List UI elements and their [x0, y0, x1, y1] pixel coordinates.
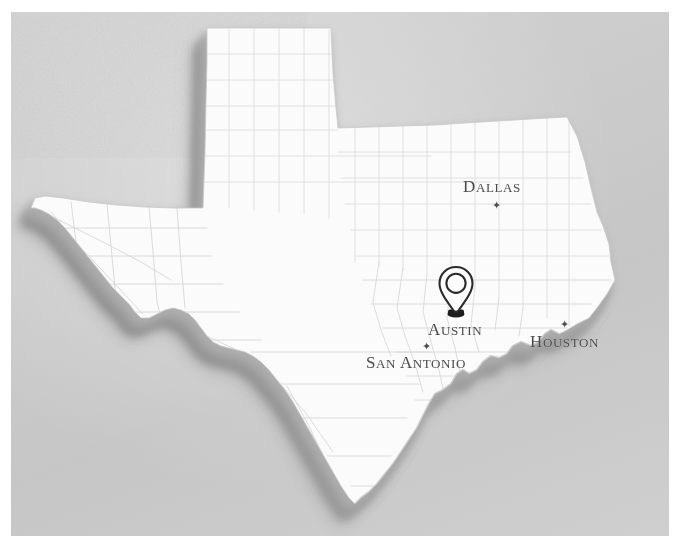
- map-screenshot: DALLAS ✦ AUSTIN SAN ANTONIO ✦ HOUSTON ✦: [0, 0, 680, 548]
- city-label-san-antonio-initial-1: S: [366, 353, 376, 372]
- city-label-san-antonio-rest-2: NTONIO: [413, 356, 466, 371]
- city-label-houston-initial: H: [530, 332, 543, 351]
- texas-landmass: [31, 28, 615, 504]
- city-star-houston: ✦: [560, 319, 569, 330]
- city-label-san-antonio-rest-1: AN: [376, 356, 396, 371]
- city-label-houston-rest: OUSTON: [543, 335, 599, 350]
- city-label-austin-initial: A: [428, 320, 441, 339]
- city-label-houston: HOUSTON: [530, 333, 599, 350]
- city-label-dallas: DALLAS: [463, 178, 521, 195]
- city-label-dallas-initial: D: [463, 177, 476, 196]
- texas-map-graphic: [11, 12, 669, 536]
- city-star-dallas: ✦: [492, 200, 501, 211]
- city-star-san-antonio: ✦: [422, 341, 431, 352]
- city-label-austin: AUSTIN: [428, 321, 482, 338]
- map-photo-plate: DALLAS ✦ AUSTIN SAN ANTONIO ✦ HOUSTON ✦: [11, 12, 669, 536]
- city-label-austin-rest: USTIN: [441, 323, 482, 338]
- city-label-dallas-rest: ALLAS: [476, 180, 521, 195]
- location-pin-icon[interactable]: [435, 264, 477, 322]
- city-label-san-antonio: SAN ANTONIO: [366, 354, 466, 371]
- city-label-san-antonio-initial-2: A: [400, 353, 413, 372]
